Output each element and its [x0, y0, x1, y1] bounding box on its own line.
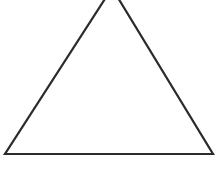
triangle-shape [5, 0, 213, 154]
triangle-diagram [0, 0, 216, 181]
caption-text [0, 164, 216, 178]
